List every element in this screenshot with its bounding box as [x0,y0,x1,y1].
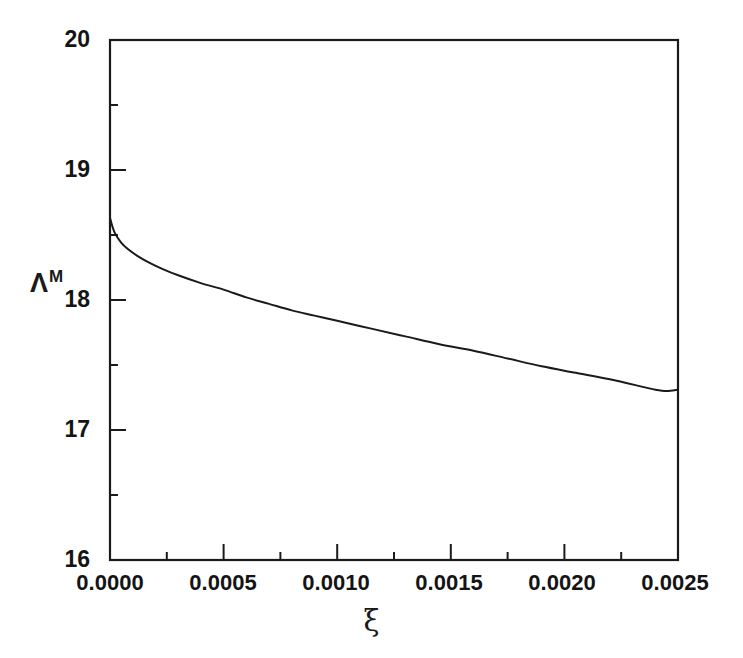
y-tick-label-17: 17 [30,418,90,441]
y-tick-label-20: 20 [30,28,90,51]
axis-ticks [110,105,621,560]
y-tick-label-16: 16 [30,548,90,571]
chart-figure: ΛM 20 19 18 17 16 0.0000 0.0005 0.0010 0… [0,0,743,658]
y-tick-label-18: 18 [30,288,90,311]
plot-frame [110,40,678,560]
x-axis-title: ξ [0,604,743,638]
y-tick-label-19: 19 [30,158,90,181]
y-axis-title-superscript: M [49,267,63,286]
plot-area [0,0,743,658]
x-tick-label-5: 0.0025 [605,572,743,594]
data-series-line [110,218,678,391]
